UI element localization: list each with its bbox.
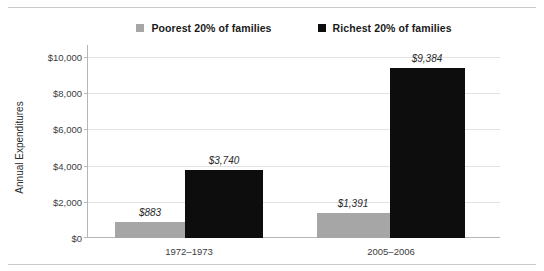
y-tick-mark-2000: [84, 202, 88, 203]
legend-label-poorest: Poorest 20% of families: [151, 22, 271, 34]
y-tick-label-6000: $6,000: [22, 124, 82, 135]
plot-area: $883 $3,740 $1,391 $9,384: [88, 57, 500, 238]
y-tick-label-10000: $10,000: [22, 52, 82, 63]
value-label-poorest-2005: $1,391: [338, 198, 369, 209]
legend-swatch-richest: [318, 24, 326, 32]
y-tick-label-8000: $8,000: [22, 88, 82, 99]
top-divider: [8, 7, 536, 8]
y-tick-label-0: $0: [22, 233, 82, 244]
bar-richest-1972[interactable]: [185, 170, 263, 238]
bottom-divider: [8, 264, 536, 265]
chart-legend: Poorest 20% of families Richest 20% of f…: [88, 22, 500, 34]
legend-label-richest: Richest 20% of families: [333, 22, 452, 34]
bar-poorest-2005[interactable]: [317, 213, 390, 238]
bar-chart-figure: Poorest 20% of families Richest 20% of f…: [0, 0, 544, 271]
y-axis-line: [87, 45, 88, 238]
y-tick-mark-10000: [84, 57, 88, 58]
y-axis-title-text: Annual Expenditures: [14, 101, 25, 193]
y-tick-label-2000: $2,000: [22, 196, 82, 207]
value-label-richest-2005: $9,384: [412, 53, 443, 64]
bar-poorest-1972[interactable]: [115, 222, 185, 238]
legend-item-poorest[interactable]: Poorest 20% of families: [136, 22, 271, 34]
y-tick-mark-6000: [84, 129, 88, 130]
y-axis-title: Annual Expenditures: [10, 57, 28, 238]
y-tick-label-4000: $4,000: [22, 160, 82, 171]
y-tick-mark-8000: [84, 93, 88, 94]
y-tick-mark-0: [84, 237, 88, 238]
x-category-label-2005: 2005–2006: [367, 246, 415, 257]
bar-richest-2005[interactable]: [390, 68, 465, 238]
x-category-label-1972: 1972–1973: [165, 246, 213, 257]
value-label-richest-1972: $3,740: [209, 155, 240, 166]
value-label-poorest-1972: $883: [139, 207, 161, 218]
legend-item-richest[interactable]: Richest 20% of families: [318, 22, 452, 34]
legend-swatch-poorest: [136, 24, 144, 32]
y-tick-mark-4000: [84, 166, 88, 167]
